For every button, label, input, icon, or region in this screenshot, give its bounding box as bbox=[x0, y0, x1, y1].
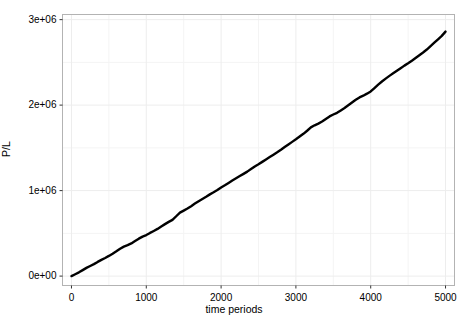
x-tick-label: 4000 bbox=[341, 292, 401, 303]
y-tick-label: 0e+00 bbox=[3, 270, 57, 281]
x-tick-label: 3000 bbox=[266, 292, 326, 303]
x-axis-title: time periods bbox=[0, 303, 468, 315]
x-tick-label: 5000 bbox=[416, 292, 468, 303]
y-axis-title: P/L bbox=[0, 129, 12, 169]
x-tick-label: 0 bbox=[41, 292, 101, 303]
x-tick-label: 1000 bbox=[116, 292, 176, 303]
x-tick-label: 2000 bbox=[191, 292, 251, 303]
chart-figure: 010002000300040005000 0e+001e+062e+063e+… bbox=[0, 0, 468, 327]
y-tick-label: 1e+06 bbox=[3, 185, 57, 196]
plot-panel bbox=[0, 0, 468, 327]
y-tick-label: 2e+06 bbox=[3, 99, 57, 110]
y-tick-label: 3e+06 bbox=[3, 14, 57, 25]
